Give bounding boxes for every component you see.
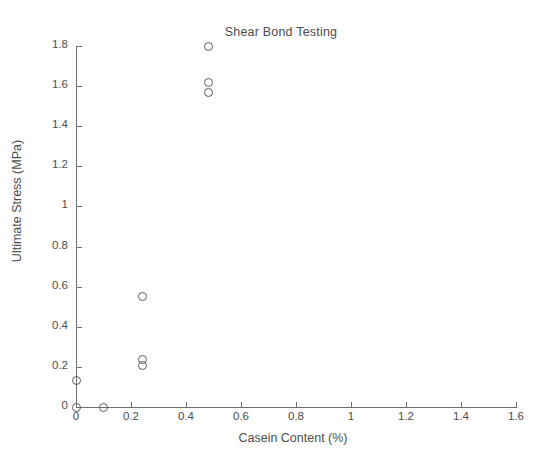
y-tick-label: 1 [28,198,68,210]
x-tick-label: 0 [56,410,96,422]
data-point-marker [72,376,81,385]
x-tick-label: 1.2 [386,410,426,422]
x-tick [516,402,517,407]
x-tick-label: 0.6 [221,410,261,422]
x-tick-label: 0.8 [276,410,316,422]
x-axis-line [76,407,517,408]
y-tick-label: 1.2 [28,158,68,170]
y-axis-label: Ultimate Stress (MPa) [10,121,24,281]
y-tick-label: 0 [28,399,68,411]
data-point-marker [138,292,147,301]
data-point-marker [204,78,213,87]
y-tick-label: 1.8 [28,38,68,50]
data-point-marker [204,88,213,97]
data-point-marker [72,403,81,412]
y-tick-label: 0.8 [28,239,68,251]
plot-area [76,46,516,407]
y-tick-label: 0.6 [28,279,68,291]
y-tick-label: 0.2 [28,359,68,371]
data-point-marker [138,361,147,370]
x-tick-label: 0.4 [166,410,206,422]
y-tick-label: 1.4 [28,118,68,130]
x-tick-label: 0.2 [111,410,151,422]
x-axis-label: Casein Content (%) [20,431,546,445]
chart-title: Shear Bond Testing [8,25,546,39]
y-tick-label: 1.6 [28,78,68,90]
x-tick-label: 1.4 [441,410,481,422]
x-tick-label: 1.6 [496,410,536,422]
data-point-marker [204,42,213,51]
x-tick-label: 1 [331,410,371,422]
data-point-marker [99,403,108,412]
chart-figure: Shear Bond Testing 00.20.40.60.811.21.41… [0,0,546,464]
y-tick-label: 0.4 [28,319,68,331]
